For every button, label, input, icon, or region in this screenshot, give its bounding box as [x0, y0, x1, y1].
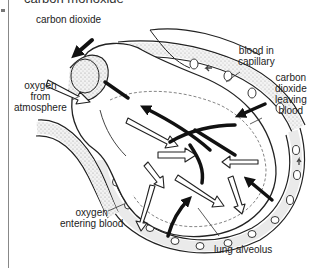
label-blood-in-capillary: blood in capillary [238, 45, 275, 67]
alveolus-illustration [0, 0, 321, 268]
label-carbon-dioxide: carbon dioxide [36, 14, 101, 25]
label-text: blood in [238, 45, 275, 56]
label-text: lung alveolus [214, 244, 272, 255]
label-oxygen-entering-blood: oxygen entering blood [60, 207, 123, 229]
label-text: oxygen [14, 80, 67, 91]
label-text: capillary [238, 56, 275, 67]
label-text: blood [275, 105, 307, 116]
label-oxygen-from-atmosphere: oxygen from atmosphere [14, 80, 67, 113]
label-text: atmosphere [14, 102, 67, 113]
label-text: entering blood [60, 218, 123, 229]
label-text: carbon dioxide [36, 14, 101, 25]
diagram-frame: carbon monoxide [0, 0, 321, 268]
label-text: from [14, 91, 67, 102]
label-text: oxygen [60, 207, 123, 218]
label-text: leaving [275, 94, 307, 105]
label-text: dioxide [275, 83, 307, 94]
label-lung-alveolus: lung alveolus [214, 244, 272, 255]
label-text: carbon [275, 72, 307, 83]
label-carbon-dioxide-leaving-blood: carbon dioxide leaving blood [275, 72, 307, 116]
